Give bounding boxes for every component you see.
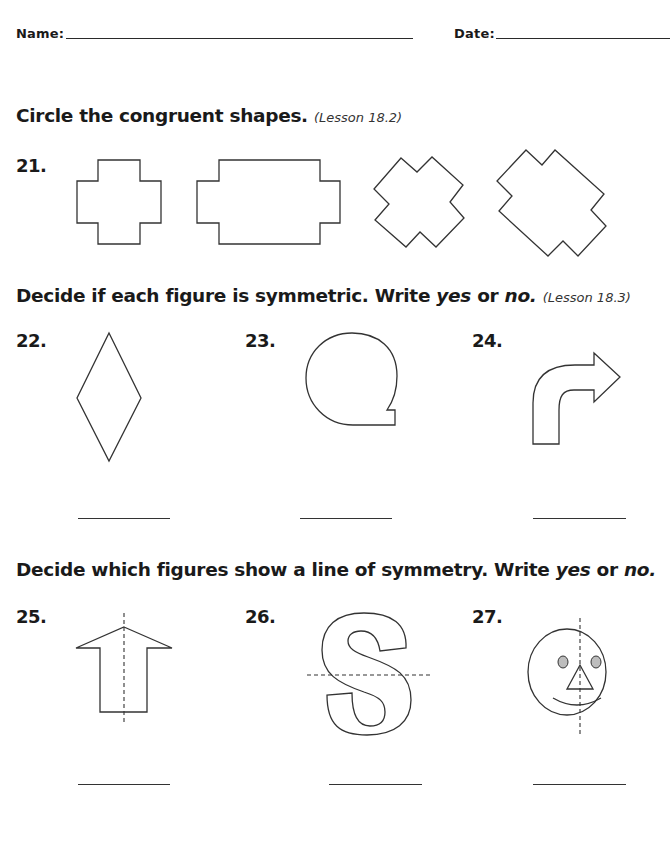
right-eye bbox=[591, 656, 601, 668]
section-3-figures bbox=[0, 0, 670, 854]
left-eye bbox=[558, 656, 568, 668]
answer-line-26[interactable] bbox=[329, 784, 422, 785]
face-outline bbox=[528, 629, 606, 715]
letter-s-figure bbox=[322, 613, 411, 735]
answer-line-27[interactable] bbox=[533, 784, 626, 785]
answer-line-25[interactable] bbox=[78, 784, 170, 785]
